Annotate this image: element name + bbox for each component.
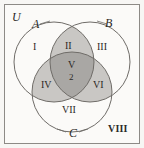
leader-C: [57, 129, 66, 132]
set-label-C: C: [69, 127, 77, 139]
region-label-IV: IV: [41, 80, 52, 90]
region-count-V: 2: [69, 73, 74, 82]
region-label-I: I: [33, 42, 36, 52]
venn-diagram-figure: U A B C I II III IV V 2 VI VII VIII: [0, 0, 144, 148]
region-label-VI: VI: [93, 80, 104, 90]
leader-C2: [79, 129, 88, 132]
universal-set-label: U: [12, 11, 21, 23]
region-label-VIII: VIII: [108, 124, 128, 134]
region-label-VII: VII: [62, 105, 76, 115]
set-label-B: B: [105, 17, 112, 29]
region-label-II: II: [65, 41, 72, 51]
set-label-A: A: [32, 18, 39, 30]
region-label-V: V: [68, 60, 75, 70]
region-label-III: III: [97, 42, 107, 52]
